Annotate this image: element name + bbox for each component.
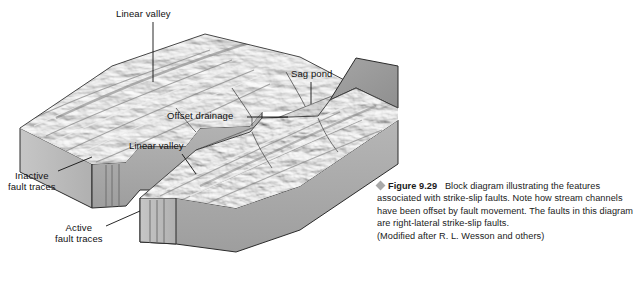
label-inactive-fault-traces-line2: fault traces xyxy=(8,181,56,192)
label-active-fault-traces-line1: Active xyxy=(55,222,103,233)
leader-active-fault-traces xyxy=(106,211,140,226)
diamond-bullet-icon xyxy=(376,181,386,191)
label-inactive-fault-traces: Inactive fault traces xyxy=(8,170,56,192)
figure-9-29: Linear valley Sag pond Offset drainage L… xyxy=(0,0,644,287)
label-active-fault-traces-line2: fault traces xyxy=(55,233,103,244)
figure-caption: Figure 9.29 Block diagram illustrating t… xyxy=(377,180,639,242)
label-offset-drainage: Offset drainage xyxy=(167,110,233,121)
label-active-fault-traces: Active fault traces xyxy=(55,222,103,244)
caption-attribution: (Modified after R. L. Wesson and others) xyxy=(377,230,639,242)
near-block-left-face xyxy=(140,198,176,244)
caption-figure-number: Figure 9.29 xyxy=(388,181,437,191)
label-inactive-fault-traces-line1: Inactive xyxy=(8,170,56,181)
caption-spacer xyxy=(437,181,445,191)
label-sag-pond: Sag pond xyxy=(291,68,332,79)
label-linear-valley-mid: Linear valley xyxy=(129,140,184,151)
caption-body: Figure 9.29 Block diagram illustrating t… xyxy=(377,180,639,230)
label-linear-valley-top: Linear valley xyxy=(116,8,171,19)
